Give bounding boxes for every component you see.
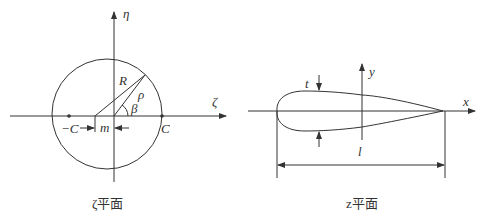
eta-label: η: [123, 6, 129, 21]
beta-label: β: [130, 101, 138, 116]
neg-c-point: [67, 114, 71, 118]
zeta-plane: η ζ R ρ β −C C m ζ平面: [10, 6, 226, 211]
neg-c-label: −C: [61, 121, 79, 136]
x-label: x: [462, 94, 469, 109]
radius-label: R: [118, 73, 127, 88]
circle: [52, 59, 162, 169]
z-plane-caption: z平面: [346, 196, 378, 211]
z-plane: y x t l z平面: [248, 64, 475, 211]
zeta-plane-caption: ζ平面: [92, 196, 123, 211]
thickness-label: t: [305, 76, 309, 91]
c-label: C: [161, 121, 170, 136]
zeta-label: ζ: [212, 94, 218, 109]
conformal-mapping-diagram: η ζ R ρ β −C C m ζ平面 y x t l z平面: [0, 0, 483, 216]
y-label: y: [367, 64, 375, 79]
beta-arc: [122, 105, 128, 116]
chord-label: l: [358, 144, 362, 159]
m-label: m: [100, 120, 109, 135]
c-point: [160, 114, 164, 118]
rho-label: ρ: [137, 87, 144, 102]
